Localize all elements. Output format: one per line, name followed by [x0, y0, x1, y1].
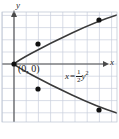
parabola-figure: y x (0, 0) x=12y2 — [0, 0, 119, 139]
data-point-lower-inner — [35, 86, 40, 91]
equation-fraction: 12 — [76, 69, 82, 85]
origin-point-label: (0, 0) — [18, 64, 40, 74]
equation-fraction-denominator: 2 — [76, 76, 82, 84]
data-point-vertex — [11, 61, 16, 66]
data-point-upper-outer — [96, 17, 101, 22]
data-point-upper-inner — [35, 41, 40, 46]
data-point-lower-outer — [96, 107, 101, 112]
y-axis-label: y — [16, 1, 20, 10]
equation-relation: = — [69, 71, 76, 81]
x-axis-label: x — [110, 58, 114, 67]
equation-exponent: 2 — [86, 70, 89, 76]
equation-fraction-numerator: 1 — [76, 69, 82, 76]
equation-label: x=12y2 — [65, 69, 89, 85]
